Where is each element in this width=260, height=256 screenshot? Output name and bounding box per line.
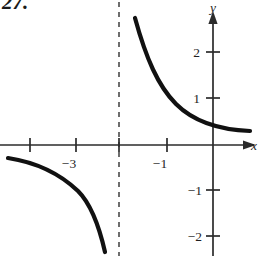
y-axis-label: y (208, 0, 216, 15)
x-tick-label-neg1: −1 (153, 156, 167, 171)
problem-number-label: 27. (2, 0, 28, 13)
y-tick-label-neg1: −1 (188, 183, 202, 198)
curve-left-branch (8, 158, 105, 252)
y-tick-label-pos2: 2 (193, 45, 200, 60)
y-tick-label-neg2: −2 (188, 229, 202, 244)
graph-svg: −3 −1 2 1 −1 −2 x y (0, 0, 260, 256)
x-tick-label-neg3: −3 (62, 156, 77, 171)
x-axis-label: x (250, 138, 257, 153)
figure-container: 27. −3 −1 2 1 −1 −2 x y (0, 0, 260, 256)
y-tick-label-pos1: 1 (193, 91, 200, 106)
curve-right-branch (135, 18, 250, 131)
